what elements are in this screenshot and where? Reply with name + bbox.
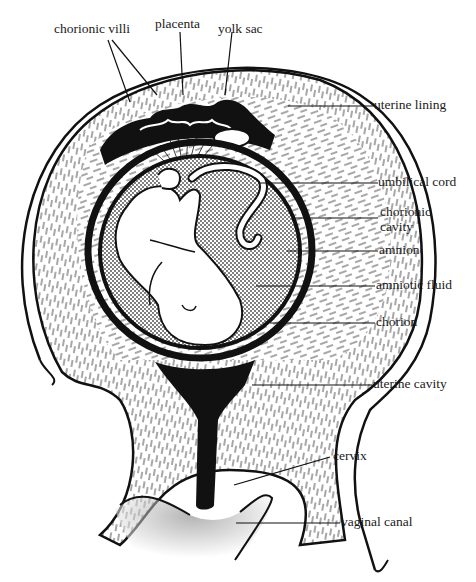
label-placenta: placenta: [155, 17, 200, 31]
label-amniotic-fluid: amniotic fluid: [376, 278, 452, 292]
label-chorionic-cavity: chorionic cavity: [380, 204, 431, 234]
label-chorion: chorion: [376, 315, 417, 329]
label-vaginal-canal: vaginal canal: [341, 515, 413, 529]
label-umbilical-cord: umbilical cord: [378, 175, 456, 189]
label-chorionic-cavity-line2: cavity: [380, 219, 431, 234]
label-cervix: cervix: [333, 449, 367, 463]
label-amnion: amnion: [379, 243, 420, 257]
label-chorionic-villi: chorionic villi: [54, 22, 130, 36]
label-uterine-lining: uterine lining: [374, 98, 446, 112]
label-yolk-sac: yolk sac: [218, 22, 263, 36]
label-uterine-cavity: uterine cavity: [373, 377, 447, 391]
vaginal-canal: [115, 495, 272, 565]
label-chorionic-cavity-line1: chorionic: [380, 204, 431, 219]
